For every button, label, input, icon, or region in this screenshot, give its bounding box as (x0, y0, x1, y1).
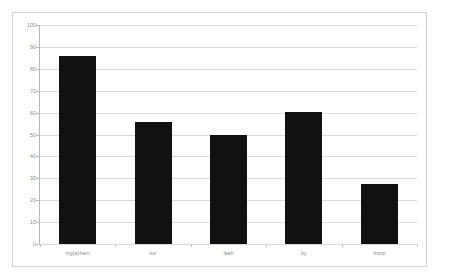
gridline (40, 25, 417, 26)
y-tick-label: 20 (12, 197, 36, 203)
y-tick-label: 60 (12, 110, 36, 116)
gridline (40, 244, 417, 245)
bar[interactable] (285, 112, 322, 244)
y-tick-label: 70 (12, 88, 36, 94)
y-tick-mark (36, 91, 39, 92)
x-tick-mark (115, 244, 116, 247)
x-tick-mark (417, 244, 418, 247)
y-tick-mark (36, 25, 39, 26)
x-tick-mark (191, 244, 192, 247)
y-tick-label: 40 (12, 153, 36, 159)
x-axis-tick-labels: ing(a)hamtunleahbythorp (40, 249, 417, 263)
bar-chart-figure: 0102030405060708090100 ing(a)hamtunleahb… (0, 0, 460, 280)
y-tick-mark (36, 178, 39, 179)
x-tick-label: leah (191, 249, 266, 257)
bar[interactable] (361, 184, 398, 244)
x-tick-label: thorp (342, 249, 417, 257)
y-tick-label: 100 (12, 22, 36, 28)
y-tick-mark (36, 69, 39, 70)
y-tick-mark (36, 135, 39, 136)
gridline (40, 113, 417, 114)
plot-area (40, 25, 417, 244)
y-tick-label: 10 (12, 219, 36, 225)
bar[interactable] (210, 135, 247, 245)
y-tick-label: 30 (12, 175, 36, 181)
y-axis-tick-labels: 0102030405060708090100 (8, 25, 36, 245)
x-tick-label: ing(a)ham (40, 249, 115, 257)
x-tick-mark (40, 244, 41, 247)
x-tick-label: by (266, 249, 341, 257)
x-tick-mark (266, 244, 267, 247)
bar[interactable] (135, 122, 172, 244)
y-tick-mark (36, 244, 39, 245)
y-tick-label: 80 (12, 66, 36, 72)
x-tick-label: tun (115, 249, 190, 257)
y-tick-label: 50 (12, 132, 36, 138)
y-tick-mark (36, 200, 39, 201)
y-tick-label: 90 (12, 44, 36, 50)
y-tick-mark (36, 156, 39, 157)
y-tick-mark (36, 47, 39, 48)
bar[interactable] (59, 56, 96, 244)
chart-title (0, 0, 460, 10)
gridline (40, 69, 417, 70)
y-tick-label: 0 (12, 241, 36, 247)
y-tick-mark (36, 222, 39, 223)
gridline (40, 91, 417, 92)
y-tick-mark (36, 113, 39, 114)
gridline (40, 47, 417, 48)
x-tick-mark (342, 244, 343, 247)
